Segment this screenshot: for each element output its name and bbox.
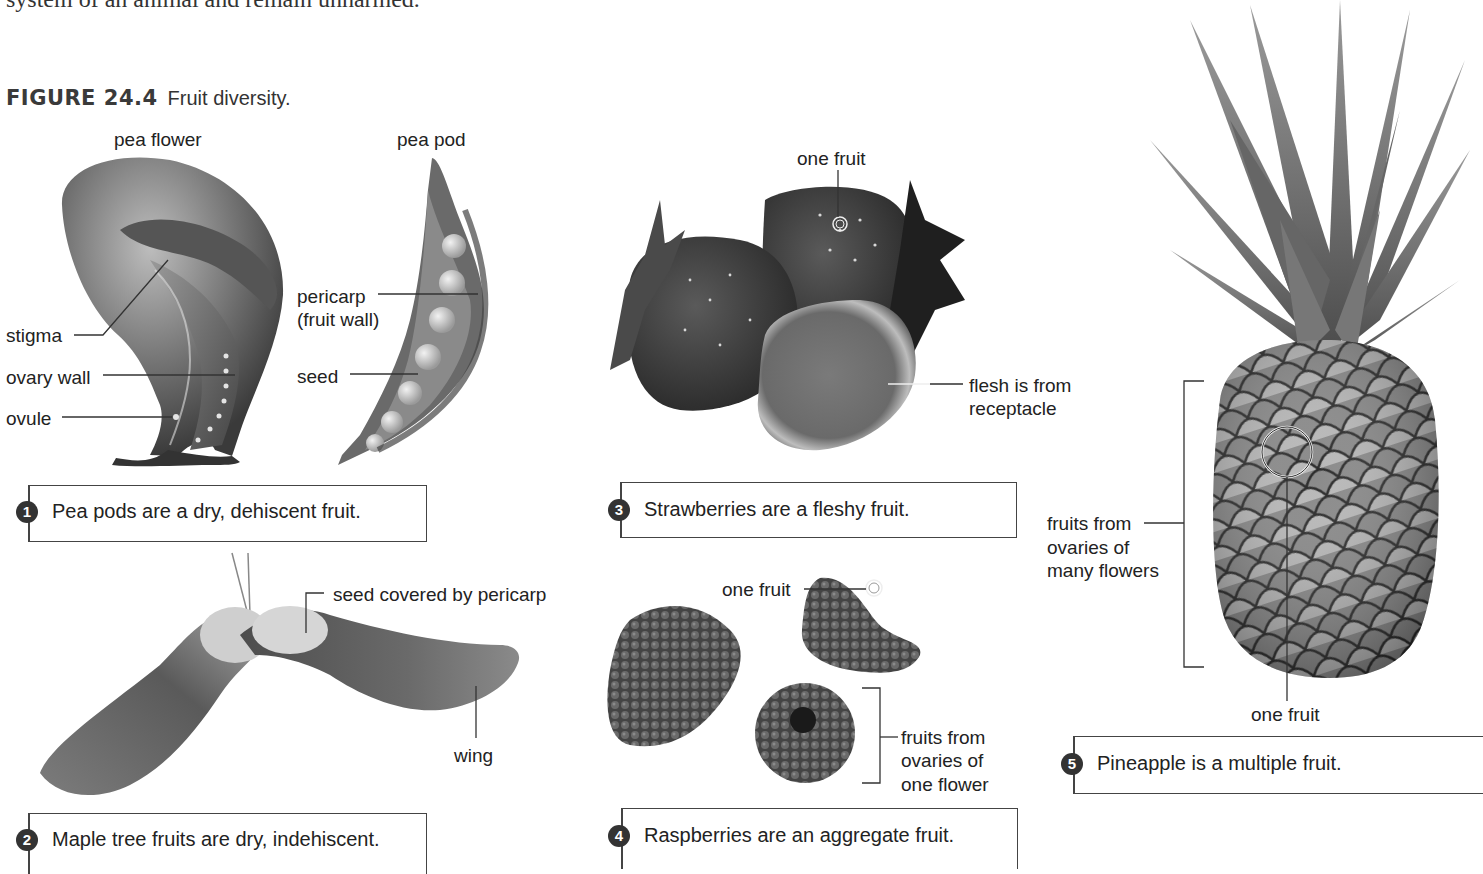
caption-5-text: Pineapple is a multiple fruit. — [1097, 752, 1342, 775]
caption-5: 5 Pineapple is a multiple fruit. — [1061, 752, 1342, 775]
badge-5: 5 — [1061, 753, 1083, 775]
